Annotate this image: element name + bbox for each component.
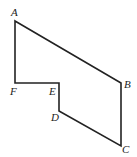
vertex-label-e: E <box>48 85 56 97</box>
vertex-label-b: B <box>124 78 131 90</box>
vertex-label-d: D <box>50 111 59 123</box>
vertex-label-f: F <box>9 85 17 97</box>
polygon-diagram: A B C D E F <box>0 0 137 157</box>
vertex-label-a: A <box>10 6 18 18</box>
vertex-label-c: C <box>122 143 130 155</box>
hexagon-outline <box>15 21 121 146</box>
